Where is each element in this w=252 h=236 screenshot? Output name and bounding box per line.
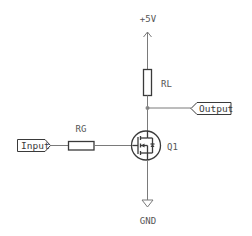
resistor-rl-body — [144, 70, 152, 96]
power-symbol: +5V — [140, 14, 157, 69]
resistor-rg: RG — [69, 124, 95, 150]
resistor-rg-label: RG — [76, 124, 87, 134]
ground-label: GND — [140, 216, 156, 226]
resistor-rl: RL — [144, 70, 172, 96]
input-port-label: Input — [21, 140, 50, 151]
ground-symbol: GND — [140, 200, 156, 226]
mosfet-q1: Q1 — [132, 131, 178, 160]
mosfet-q1-label: Q1 — [167, 142, 178, 152]
ground-icon — [142, 200, 153, 207]
output-port[interactable]: Output — [191, 103, 233, 115]
output-port-label: Output — [199, 103, 233, 114]
power-label: +5V — [140, 14, 157, 24]
schematic-diagram: +5V RL Output Input RG — [0, 0, 252, 236]
power-arrow-icon — [144, 32, 152, 69]
resistor-rg-body — [69, 142, 95, 151]
input-port[interactable]: Input — [18, 140, 51, 152]
resistor-rl-label: RL — [161, 79, 172, 89]
